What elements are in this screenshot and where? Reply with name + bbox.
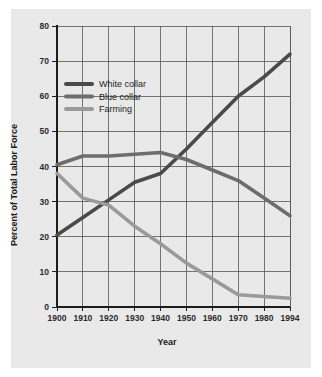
y-axis-tick-labels: 01020304050607080 [40,21,50,312]
legend-label-blue-collar: Blue collar [99,92,141,102]
x-axis-title: Year [157,337,177,347]
legend-label-white-collar: White collar [99,79,146,89]
chart-figure: 01020304050607080 1900191019201930194019… [0,0,322,377]
x-axis-tick-label: 1920 [99,313,118,323]
y-axis-tick-label: 80 [40,21,50,31]
y-axis-tick-label: 0 [44,302,49,312]
y-axis-tick-label: 70 [40,56,50,66]
x-axis-tick-label: 1950 [177,313,196,323]
grid-lines [57,26,290,307]
chart-legend: White collarBlue collarFarming [64,79,146,114]
y-axis-tick-label: 20 [40,232,50,242]
line-chart: 01020304050607080 1900191019201930194019… [0,0,322,377]
y-axis-tick-label: 50 [40,126,50,136]
y-axis-title: Percent of Total Labor Force [9,124,19,246]
x-axis-tick-label: 1900 [48,313,67,323]
x-axis-tick-label: 1970 [229,313,248,323]
y-axis-tick-label: 60 [40,91,50,101]
y-axis-tick-label: 30 [40,197,50,207]
legend-swatch-white-collar [64,82,94,86]
x-axis-tick-label: 1994 [281,313,300,323]
x-axis-tick-label: 1960 [203,313,222,323]
series-line-white-collar [57,54,290,235]
x-axis-tick-label: 1980 [255,313,274,323]
x-axis-tick-label: 1910 [73,313,92,323]
x-axis-tick-label: 1930 [125,313,144,323]
legend-label-farming: Farming [99,104,132,114]
legend-swatch-farming [64,107,94,111]
x-axis-tick-labels: 1900191019201930194019501960197019801994 [48,313,300,323]
y-axis-tick-label: 10 [40,267,50,277]
legend-swatch-blue-collar [64,94,94,98]
series-lines [57,54,290,298]
y-axis-tick-label: 40 [40,162,50,172]
x-axis-tick-label: 1940 [151,313,170,323]
axis-lines [57,25,290,307]
